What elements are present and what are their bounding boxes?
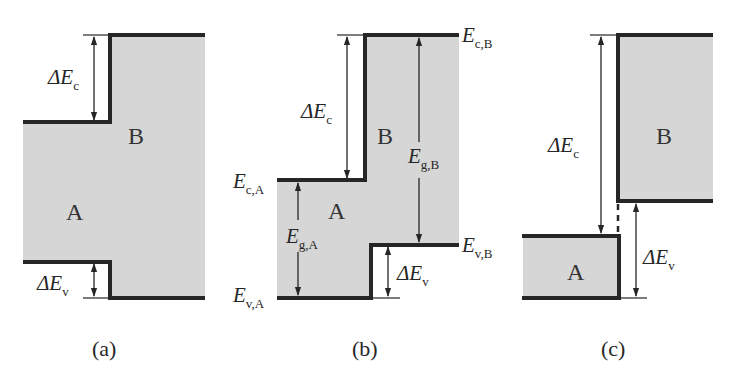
panel-b: ΔEc ΔEv Ec,A Ev,A Ec,B Ev,B Eg,A Eg,B B … (232, 23, 493, 361)
panel-b-material-b: B (377, 123, 393, 149)
panel-b-ec-a-label: Ec,A (232, 169, 265, 197)
band-alignment-figure: ΔEc ΔEv B A (a) ΔEc ΔEv Ec,A Ev,A Ec,B E… (0, 0, 733, 378)
panel-a: ΔEc ΔEv B A (a) (23, 35, 205, 361)
panel-a-material-a: A (66, 199, 84, 225)
panel-c-delta-ec-label: ΔEc (547, 133, 579, 161)
panel-b-ev-b-label: Ev,B (461, 233, 493, 261)
panel-c-gap-region-b (617, 35, 713, 201)
panel-b-delta-ec-label: ΔEc (300, 99, 332, 127)
panel-b-ev-a-label: Ev,A (232, 283, 265, 311)
panel-c-delta-ev-label: ΔEv (642, 245, 675, 273)
panel-a-delta-ec-label: ΔEc (47, 65, 79, 93)
panel-c: ΔEc ΔEv B A (c) (522, 35, 713, 361)
panel-c-caption: (c) (601, 336, 625, 361)
panel-b-ec-b-label: Ec,B (461, 23, 493, 51)
panel-b-material-a: A (328, 198, 346, 224)
panel-c-material-a: A (567, 259, 585, 285)
panel-a-material-b: B (128, 123, 144, 149)
panel-b-delta-ev-label: ΔEv (396, 261, 429, 289)
panel-b-caption: (b) (352, 336, 378, 361)
panel-a-delta-ev-label: ΔEv (36, 271, 69, 299)
panel-a-caption: (a) (92, 336, 116, 361)
panel-c-material-b: B (656, 123, 672, 149)
